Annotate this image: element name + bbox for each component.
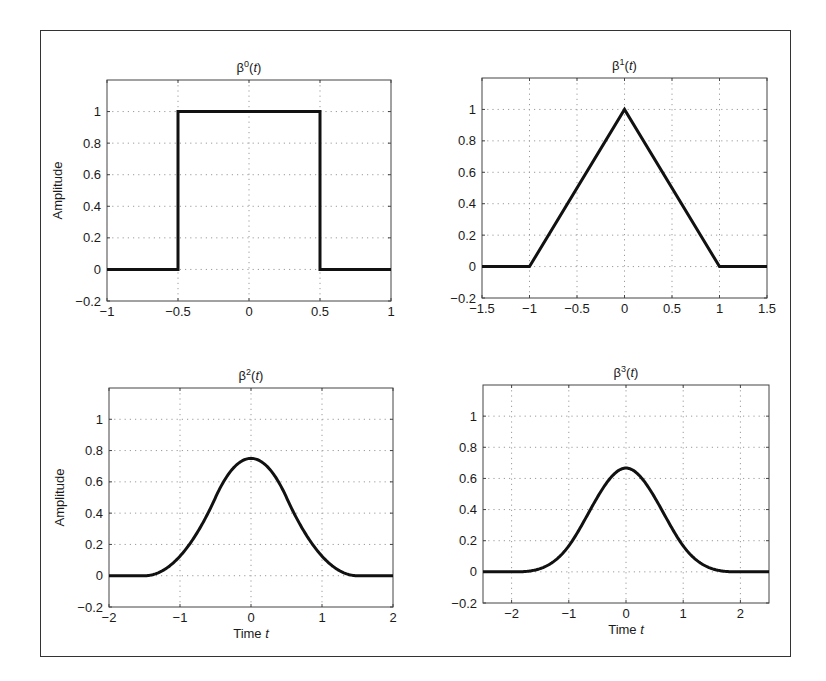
y-axis-label: Amplitude: [50, 162, 65, 220]
subplot-title: β0(t): [237, 59, 262, 75]
x-tick-label: −1: [522, 301, 537, 316]
y-tick-label: 1: [94, 104, 101, 119]
x-tick-label: 2: [389, 610, 396, 625]
y-tick-label: 0.4: [85, 506, 103, 521]
x-tick-label: −2: [504, 606, 519, 621]
y-tick-label: 0.8: [85, 443, 103, 458]
y-tick-label: 0.6: [83, 167, 101, 182]
x-tick-label: 0: [621, 301, 628, 316]
y-tick-labels: −0.200.20.40.60.81: [451, 409, 477, 611]
y-tick-label: 0.8: [459, 440, 477, 455]
y-tick-label: 0.2: [83, 230, 101, 245]
x-tick-label: 1: [716, 301, 723, 316]
y-tick-label: 0.6: [459, 471, 477, 486]
x-tick-label: 0: [245, 304, 252, 319]
grid-lines: [107, 80, 391, 301]
y-tick-labels: −0.200.20.40.60.81: [77, 412, 103, 615]
x-tick-labels: −1.5−1−0.500.511.5: [469, 301, 776, 316]
x-tick-label: 1.5: [758, 301, 776, 316]
y-tick-labels: −0.200.20.40.60.81: [450, 102, 476, 306]
y-tick-label: 0: [469, 259, 476, 274]
y-tick-label: 0: [470, 564, 477, 579]
y-tick-label: −0.2: [451, 596, 477, 611]
y-tick-label: −0.2: [77, 600, 103, 615]
x-tick-labels: −2−1012: [102, 610, 397, 625]
x-tick-label: 1: [387, 304, 394, 319]
subplot-title: β3(t): [614, 364, 639, 380]
x-tick-label: 0: [622, 606, 629, 621]
y-tick-label: 0.2: [85, 537, 103, 552]
x-tick-label: −1: [100, 304, 115, 319]
y-tick-label: 0: [96, 568, 103, 583]
y-tick-label: −0.2: [450, 291, 476, 306]
y-tick-label: 0.2: [458, 228, 476, 243]
bspline-curve: [107, 112, 391, 270]
bspline-figure: −1−0.500.51−0.200.20.40.60.81β0(t)Amplit…: [0, 0, 826, 681]
subplot-beta2: −2−1012−0.200.20.40.60.81β2(t)AmplitudeT…: [52, 367, 397, 641]
x-axis-label: Time t: [233, 626, 270, 641]
x-tick-labels: −1−0.500.51: [100, 304, 395, 319]
x-tick-label: −1: [561, 606, 576, 621]
x-tick-label: −1: [173, 610, 188, 625]
x-tick-label: 0: [247, 610, 254, 625]
x-axis-label: Time t: [608, 622, 645, 637]
y-tick-label: 0.4: [458, 196, 476, 211]
subplot-title: β2(t): [239, 367, 264, 383]
subplot-beta3: −2−1012−0.200.20.40.60.81β3(t)Time t: [451, 364, 769, 637]
y-tick-label: 0: [94, 262, 101, 277]
y-tick-label: 0.8: [83, 136, 101, 151]
x-tick-label: 1: [318, 610, 325, 625]
x-tick-label: 0.5: [663, 301, 681, 316]
subplot-beta0: −1−0.500.51−0.200.20.40.60.81β0(t)Amplit…: [50, 59, 395, 319]
x-tick-label: 1: [680, 606, 687, 621]
y-tick-label: 0.6: [458, 165, 476, 180]
x-tick-label: −0.5: [165, 304, 191, 319]
subplot-beta1: −1.5−1−0.500.511.5−0.200.20.40.60.81β1(t…: [450, 57, 776, 316]
y-tick-label: 1: [470, 409, 477, 424]
y-tick-label: 0.4: [459, 502, 477, 517]
y-tick-label: 0.4: [83, 199, 101, 214]
bspline-curve: [483, 468, 769, 572]
y-tick-label: 1: [96, 412, 103, 427]
y-tick-labels: −0.200.20.40.60.81: [75, 104, 101, 308]
x-tick-label: −2: [102, 610, 117, 625]
y-axis-label: Amplitude: [52, 469, 67, 527]
bspline-curve: [109, 458, 393, 575]
y-tick-label: 1: [469, 102, 476, 117]
x-tick-label: 2: [737, 606, 744, 621]
y-tick-label: 0.2: [459, 533, 477, 548]
y-tick-label: 0.6: [85, 474, 103, 489]
subplot-title: β1(t): [612, 57, 637, 73]
y-tick-label: 0.8: [458, 133, 476, 148]
x-tick-label: 0.5: [311, 304, 329, 319]
y-tick-label: −0.2: [75, 294, 101, 309]
x-tick-labels: −2−1012: [504, 606, 744, 621]
x-tick-label: −0.5: [564, 301, 590, 316]
